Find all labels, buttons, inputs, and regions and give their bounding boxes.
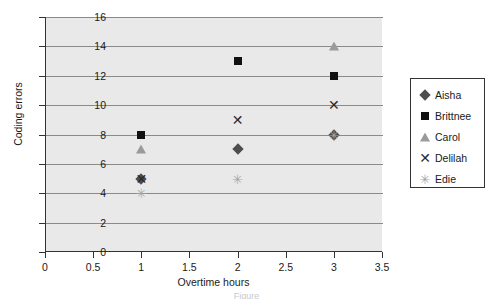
marker-x-icon: ✕	[135, 172, 147, 186]
y-tick-label: 4	[66, 188, 106, 198]
legend-marker	[417, 108, 433, 124]
y-tick-label: 2	[66, 218, 106, 228]
legend-marker	[417, 129, 433, 145]
x-tick-mark	[334, 252, 335, 258]
marker-diamond-icon	[419, 89, 430, 100]
x-tick-label: 0	[25, 261, 65, 273]
legend-label: Edie	[433, 173, 456, 185]
marker-star-icon: ✳	[420, 172, 431, 185]
marker-square-icon	[137, 131, 145, 139]
x-tick-label: 3.5	[362, 261, 402, 273]
x-tick-label: 1	[121, 261, 161, 273]
x-tick-mark	[141, 252, 142, 258]
marker-square-icon	[330, 72, 338, 80]
y-tick-mark	[39, 105, 45, 106]
y-tick-mark	[39, 46, 45, 47]
y-tick-mark	[39, 135, 45, 136]
chart-legend: AishaBrittneeCarol✕Delilah✳Edie	[410, 78, 485, 188]
x-tick-mark	[45, 252, 46, 258]
y-tick-label: 6	[66, 159, 106, 169]
marker-triangle-icon	[420, 132, 430, 141]
legend-label: Brittnee	[433, 110, 471, 122]
legend-item-carol[interactable]: Carol	[411, 126, 484, 147]
marker-star-icon: ✳	[136, 187, 147, 200]
marker-square-icon	[234, 57, 242, 65]
legend-label: Delilah	[433, 152, 467, 164]
marker-triangle-icon	[136, 145, 146, 154]
y-tick-mark	[39, 76, 45, 77]
legend-item-edie[interactable]: ✳Edie	[411, 168, 484, 189]
marker-square-icon	[421, 112, 429, 120]
marker-triangle-icon	[329, 42, 339, 51]
legend-item-brittnee[interactable]: Brittnee	[411, 105, 484, 126]
legend-marker: ✳	[417, 171, 433, 187]
marker-star-icon: ✳	[328, 128, 339, 141]
y-tick-mark	[39, 164, 45, 165]
y-tick-label: 16	[66, 12, 106, 22]
x-tick-label: 2.5	[266, 261, 306, 273]
x-tick-mark	[382, 252, 383, 258]
legend-label: Aisha	[433, 89, 461, 101]
x-tick-label: 2	[218, 261, 258, 273]
figure-caption: Figure	[0, 291, 493, 299]
x-tick-mark	[238, 252, 239, 258]
x-axis-title: Overtime hours	[45, 276, 382, 288]
marker-x-icon: ✕	[328, 98, 340, 112]
x-tick-label: 1.5	[169, 261, 209, 273]
y-tick-label: 10	[66, 100, 106, 110]
legend-marker: ✕	[417, 150, 433, 166]
x-tick-mark	[189, 252, 190, 258]
y-tick-label: 14	[66, 41, 106, 51]
y-tick-label: 0	[66, 247, 106, 257]
legend-item-delilah[interactable]: ✕Delilah	[411, 147, 484, 168]
y-tick-mark	[39, 17, 45, 18]
x-tick-label: 3	[314, 261, 354, 273]
y-tick-mark	[39, 223, 45, 224]
legend-marker	[417, 87, 433, 103]
scatter-chart-figure: Coding errors Overtime hours AishaBrittn…	[0, 0, 493, 299]
legend-item-aisha[interactable]: Aisha	[411, 84, 484, 105]
y-tick-label: 12	[66, 71, 106, 81]
legend-label: Carol	[433, 131, 460, 143]
marker-x-icon: ✕	[232, 113, 244, 127]
x-tick-label: 0.5	[73, 261, 113, 273]
marker-star-icon: ✳	[232, 172, 243, 185]
marker-x-icon: ✕	[419, 151, 431, 165]
x-tick-mark	[93, 252, 94, 258]
y-axis-title: Coding errors	[12, 54, 24, 174]
x-tick-mark	[286, 252, 287, 258]
y-tick-label: 8	[66, 130, 106, 140]
y-tick-mark	[39, 193, 45, 194]
